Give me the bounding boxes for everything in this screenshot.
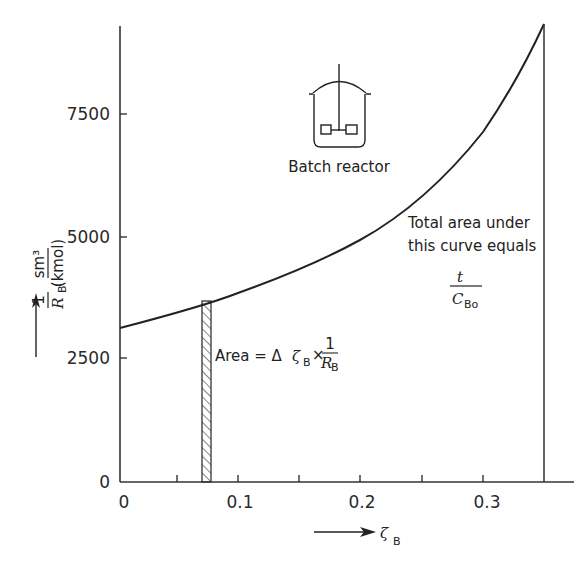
strip-area-sub: B: [303, 356, 311, 369]
y-tick-label: 2500: [67, 348, 110, 368]
x-ticks: [177, 475, 483, 482]
total-area-den: C: [452, 290, 464, 308]
total-area-num: t: [457, 268, 464, 286]
x-tick-label: 0.2: [348, 492, 375, 512]
y-tick-label: 0: [99, 472, 110, 492]
x-axis-label-sub: B: [393, 535, 401, 548]
chart: 7500 5000 2500 0 0 0.1 0.2 0.3 1 R B sm³…: [0, 0, 586, 561]
x-tick-label: 0.3: [473, 492, 500, 512]
data-curve: [120, 24, 544, 328]
total-area-den-sub: Bo: [464, 298, 479, 311]
x-axis-label: ζ: [380, 524, 389, 542]
x-tick-label: 0: [119, 492, 130, 512]
total-area-line1: Total area under: [407, 214, 531, 232]
strip-area-prefix: Area = Δ: [215, 347, 283, 365]
y-tick-label: 5000: [67, 227, 110, 247]
x-tick-label: 0.1: [226, 492, 253, 512]
reactor-caption: Batch reactor: [288, 158, 390, 176]
strip-area-sym: ζ: [292, 347, 301, 365]
y-tick-labels: 7500 5000 2500 0: [67, 104, 110, 492]
y-tick-label: 7500: [67, 104, 110, 124]
y-label-den: R: [49, 297, 67, 309]
area-strip: [202, 301, 211, 482]
batch-reactor-icon: [309, 64, 371, 147]
x-tick-labels: 0 0.1 0.2 0.3: [119, 492, 501, 512]
strip-area-den-sub: B: [331, 361, 339, 374]
x-arrow-icon: [314, 527, 376, 537]
y-label-unit-den: (kmol): [49, 239, 67, 287]
strip-area-num: 1: [325, 335, 335, 353]
total-area-line2: this curve equals: [408, 237, 537, 255]
y-ticks: [120, 114, 127, 358]
y-label-num: 1: [30, 295, 48, 305]
y-label-unit-num: sm³: [30, 250, 48, 278]
